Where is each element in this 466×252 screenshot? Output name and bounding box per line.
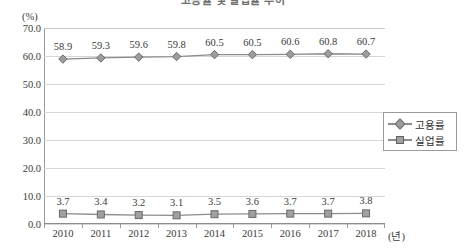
y-axis-tick-label: 40.0	[1, 107, 41, 118]
data-point-label: 3.7	[43, 196, 83, 207]
data-point-marker	[324, 50, 332, 58]
data-point-marker	[363, 210, 370, 217]
y-axis-tick-label: 30.0	[1, 135, 41, 146]
legend-label-unemployment: 실업률	[415, 133, 445, 148]
legend-item-employment[interactable]: 고용률	[388, 116, 452, 132]
data-point-marker	[172, 52, 180, 60]
plot-area: 58.959.359.659.860.560.560.660.860.73.73…	[44, 28, 385, 224]
x-axis-unit-label: (년)	[388, 228, 405, 243]
chart-title-clip: 고용률 및 실업률 추이	[0, 0, 466, 7]
y-axis-tick-label: 50.0	[1, 79, 41, 90]
data-point-label: 59.6	[119, 39, 159, 50]
y-axis-tick-labels: 70.060.050.040.030.020.010.00.0	[0, 28, 41, 224]
data-point-label: 60.7	[346, 36, 386, 47]
data-point-label: 60.8	[308, 36, 348, 47]
y-axis-unit-label: (%)	[22, 11, 38, 22]
data-point-marker	[249, 210, 256, 217]
gridline	[44, 224, 385, 225]
data-point-marker	[59, 210, 66, 217]
data-point-marker	[248, 50, 256, 58]
chart-title: 고용률 및 실업률 추이	[0, 0, 466, 7]
data-point-marker	[97, 54, 105, 62]
data-point-marker	[362, 50, 370, 58]
data-point-marker	[59, 55, 67, 63]
data-point-label: 60.6	[270, 36, 310, 47]
series-lines	[44, 28, 385, 224]
data-point-label: 59.3	[81, 40, 121, 51]
diamond-marker-icon	[388, 117, 412, 131]
data-point-marker	[325, 210, 332, 217]
data-point-label: 58.9	[43, 41, 83, 52]
data-point-label: 60.5	[195, 37, 235, 48]
data-point-label: 3.4	[81, 196, 121, 207]
data-point-label: 60.5	[232, 37, 272, 48]
data-point-marker	[286, 50, 294, 58]
data-point-marker	[211, 211, 218, 218]
data-point-label: 3.7	[270, 196, 310, 207]
data-point-marker	[210, 50, 218, 58]
data-point-label: 3.5	[195, 196, 235, 207]
y-axis-tick-label: 10.0	[1, 191, 41, 202]
data-point-marker	[135, 212, 142, 219]
y-axis-tick-label: 60.0	[1, 51, 41, 62]
data-point-label: 3.1	[157, 197, 197, 208]
data-point-label: 59.8	[157, 39, 197, 50]
x-axis-tick-label: 2018	[343, 228, 389, 239]
y-axis-tick-label: 20.0	[1, 163, 41, 174]
y-axis-tick-label: 0.0	[1, 219, 41, 230]
x-axis-tick-labels: 201020112012201320142015201620172018	[44, 228, 385, 246]
square-marker-icon	[388, 133, 412, 147]
legend-item-unemployment[interactable]: 실업률	[388, 132, 452, 148]
data-point-marker	[173, 212, 180, 219]
chart-legend[interactable]: 고용률 실업률	[383, 112, 457, 151]
data-point-marker	[287, 210, 294, 217]
data-point-label: 3.2	[119, 197, 159, 208]
data-point-marker	[97, 211, 104, 218]
y-axis-tick-label: 70.0	[1, 23, 41, 34]
data-point-label: 3.6	[232, 196, 272, 207]
data-point-label: 3.7	[308, 196, 348, 207]
legend-label-employment: 고용률	[415, 117, 445, 132]
data-point-label: 3.8	[346, 195, 386, 206]
data-point-marker	[135, 53, 143, 61]
